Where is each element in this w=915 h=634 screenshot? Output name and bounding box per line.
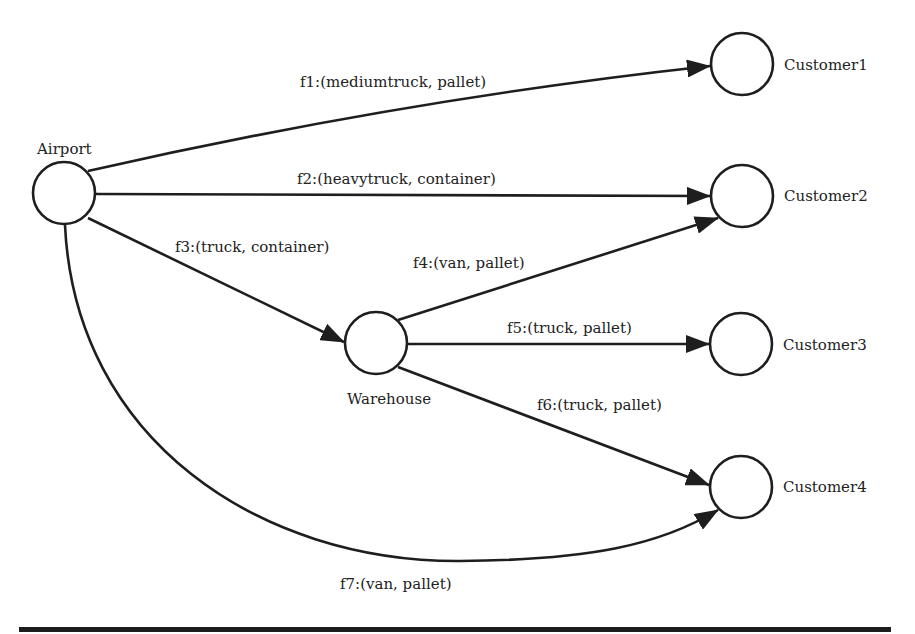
label-airport: Airport bbox=[36, 140, 92, 158]
label-f1: f1:(mediumtruck, pallet) bbox=[300, 73, 486, 91]
label-f2: f2:(heavytruck, container) bbox=[297, 170, 496, 188]
label-f7: f7:(van, pallet) bbox=[340, 575, 452, 593]
node-customer1 bbox=[711, 33, 773, 95]
label-f6: f6:(truck, pallet) bbox=[537, 396, 662, 414]
label-f3: f3:(truck, container) bbox=[175, 238, 329, 256]
edge-f6 bbox=[398, 367, 709, 485]
node-labels: Airport Warehouse Customer1 Customer2 Cu… bbox=[36, 56, 868, 496]
node-customer3 bbox=[710, 313, 772, 375]
node-customer4 bbox=[710, 456, 772, 518]
edges bbox=[65, 66, 718, 561]
label-customer2: Customer2 bbox=[784, 187, 868, 205]
label-customer4: Customer4 bbox=[783, 478, 867, 496]
edge-f2 bbox=[96, 194, 710, 196]
label-warehouse: Warehouse bbox=[347, 390, 431, 408]
node-customer2 bbox=[711, 165, 773, 227]
edge-f3 bbox=[88, 218, 344, 342]
nodes bbox=[33, 33, 773, 518]
bottom-rule bbox=[19, 627, 891, 632]
edge-labels: f1:(mediumtruck, pallet) f2:(heavytruck,… bbox=[175, 73, 662, 593]
node-airport bbox=[33, 162, 95, 224]
label-customer3: Customer3 bbox=[783, 336, 867, 354]
node-warehouse bbox=[345, 312, 407, 374]
transport-network-diagram: Airport Warehouse Customer1 Customer2 Cu… bbox=[0, 0, 915, 634]
label-f4: f4:(van, pallet) bbox=[413, 254, 525, 272]
label-f5: f5:(truck, pallet) bbox=[507, 319, 632, 337]
label-customer1: Customer1 bbox=[784, 56, 868, 74]
